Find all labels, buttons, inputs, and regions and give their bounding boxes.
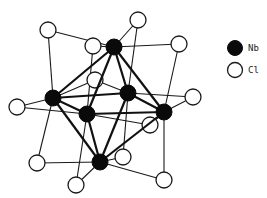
nb-atom-back [120, 85, 136, 101]
cl-atom [171, 36, 187, 52]
cl-atom [40, 22, 56, 38]
cl-atom [68, 177, 84, 193]
legend-nb-symbol [228, 41, 243, 56]
cl-atom [156, 172, 172, 188]
nb-atom-left [45, 90, 61, 106]
cl-atom [130, 12, 146, 28]
cl-atom [29, 155, 45, 171]
cl-atom [115, 149, 131, 165]
legend-cl-symbol [228, 63, 243, 78]
nb-atom-right [156, 104, 172, 120]
nb-atom-bottom [92, 154, 108, 170]
nb-atom-front [79, 106, 95, 122]
cl-atom [85, 38, 101, 54]
cl-atom [9, 99, 25, 115]
legend: Nb Cl [228, 41, 259, 78]
legend-cl-label: Cl [248, 65, 259, 75]
nb-atom-top [106, 39, 122, 55]
nb-nb-bonds [53, 47, 164, 162]
legend-nb-label: Nb [248, 43, 259, 53]
cl-atom [185, 89, 201, 105]
nb6cl12-cluster-diagram: Nb Cl [0, 0, 267, 198]
